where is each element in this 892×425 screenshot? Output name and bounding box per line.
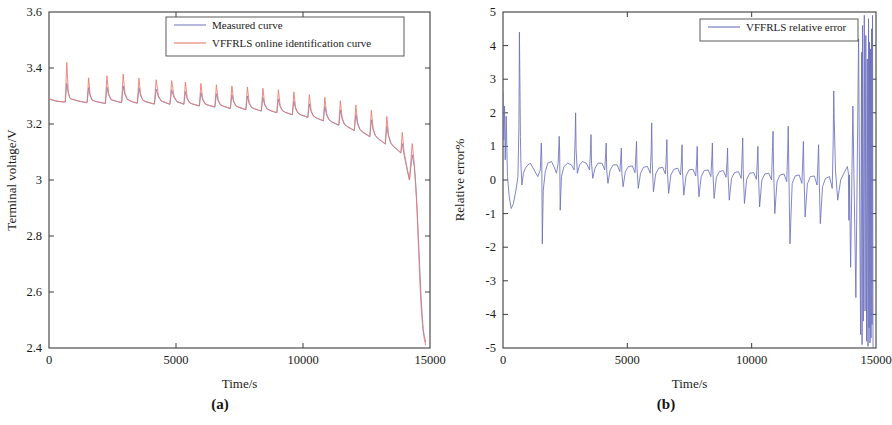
x-axis-label: Time/s [222,376,258,391]
y-tick-label: 3.6 [26,5,42,19]
y-tick-label: 1 [490,139,496,153]
x-tick-label: 10000 [736,353,767,367]
y-tick-label: 3 [36,173,42,187]
y-tick-label: 3.4 [26,61,42,75]
x-tick-label: 0 [46,353,52,367]
y-tick-label: -3 [486,274,496,288]
y-tick-label: 3.2 [26,117,42,131]
subplot-a: 0500010000150002.42.62.833.23.43.6Time/s… [0,0,446,425]
legend: VFFRLS relative error [700,19,858,41]
relative-error-plot: 050001000015000-5-4-3-2-1012345Time/sRel… [446,0,892,425]
plot-background [503,12,876,348]
y-axis-label: Terminal voltage/V [4,129,19,231]
legend: Measured curveVFFRLS online identificati… [166,17,404,56]
x-tick-label: 15000 [414,353,445,367]
x-tick-label: 5000 [164,353,189,367]
y-tick-label: -5 [486,341,496,355]
subplot-caption-a: (a) [150,396,290,413]
y-tick-label: 0 [490,173,496,187]
x-tick-label: 0 [500,353,506,367]
x-tick-label: 10000 [287,353,318,367]
y-tick-label: 5 [490,5,496,19]
legend-label-1: Measured curve [212,19,283,31]
y-tick-label: 4 [490,39,497,53]
subplot-b: 050001000015000-5-4-3-2-1012345Time/sRel… [446,0,892,425]
plot-background [49,12,430,348]
y-tick-label: -2 [486,240,496,254]
figure-container: 0500010000150002.42.62.833.23.43.6Time/s… [0,0,892,425]
y-tick-label: -1 [486,207,496,221]
y-tick-label: 2 [490,106,496,120]
x-axis-label: Time/s [672,376,708,391]
subplot-caption-b: (b) [596,396,736,413]
legend-label-1: VFFRLS relative error [746,21,847,33]
legend-label-2: VFFRLS online identification curve [212,37,371,49]
y-axis-label: Relative error% [452,139,467,222]
y-tick-label: 2.4 [26,341,42,355]
x-tick-label: 5000 [615,353,640,367]
y-tick-label: -4 [486,307,497,321]
x-tick-label: 15000 [860,353,891,367]
terminal-voltage-plot: 0500010000150002.42.62.833.23.43.6Time/s… [0,0,446,425]
y-tick-label: 2.6 [26,285,42,299]
y-tick-label: 3 [490,72,496,86]
y-tick-label: 2.8 [26,229,42,243]
